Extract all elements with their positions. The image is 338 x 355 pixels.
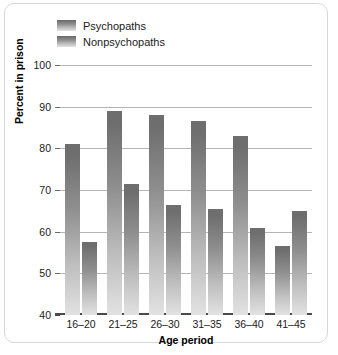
x-tick-label: 36–40: [228, 318, 270, 330]
chart-plot-area: 405060708090100: [60, 65, 312, 315]
bar: [208, 209, 223, 315]
bar-group: [186, 65, 228, 315]
y-tick-label: 60: [39, 226, 51, 238]
bar: [250, 228, 265, 316]
y-tick-label: 40: [39, 309, 51, 321]
legend-swatch-icon: [57, 20, 76, 31]
bar: [107, 111, 122, 315]
y-tick-label: 100: [33, 59, 51, 71]
x-tick-label: 21–25: [102, 318, 144, 330]
bar-group: [60, 65, 102, 315]
bar-group: [144, 65, 186, 315]
x-tick-label: 31–35: [186, 318, 228, 330]
bar: [292, 211, 307, 315]
bar: [166, 205, 181, 315]
y-tick-label: 80: [39, 142, 51, 154]
y-tick-label: 90: [39, 101, 51, 113]
x-tick-label: 16–20: [60, 318, 102, 330]
x-tick-label: 26–30: [144, 318, 186, 330]
bar: [82, 242, 97, 315]
chart-bars: [60, 65, 312, 315]
chart-x-axis-title: Age period: [60, 334, 312, 346]
bar-group: [270, 65, 312, 315]
chart-figure: PsychopathsNonpsychopaths 40506070809010…: [4, 3, 328, 343]
bar: [124, 184, 139, 315]
bar: [149, 115, 164, 315]
bar: [233, 136, 248, 315]
chart-x-tick-labels: 16–2021–2526–3031–3536–4041–45: [60, 318, 312, 330]
y-tick-label: 70: [39, 184, 51, 196]
chart-legend: PsychopathsNonpsychopaths: [57, 18, 257, 50]
legend-label: Nonpsychopaths: [83, 36, 165, 48]
y-tick-mark: [55, 315, 60, 316]
y-tick-label: 50: [39, 267, 51, 279]
bar-group: [102, 65, 144, 315]
chart-y-axis-title: Percent in prison: [13, 0, 25, 124]
legend-swatch-icon: [57, 36, 76, 47]
x-tick-label: 41–45: [270, 318, 312, 330]
bar-group: [228, 65, 270, 315]
bar: [65, 144, 80, 315]
bar: [275, 246, 290, 315]
legend-item-1: Nonpsychopaths: [57, 34, 257, 49]
legend-label: Psychopaths: [83, 20, 146, 32]
legend-item-0: Psychopaths: [57, 18, 257, 33]
bar: [191, 121, 206, 315]
